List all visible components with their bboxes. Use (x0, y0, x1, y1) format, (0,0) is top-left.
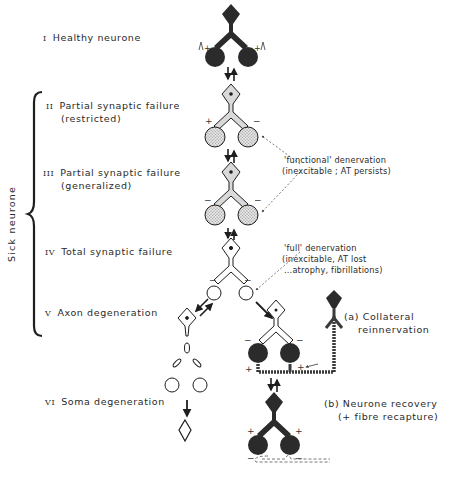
stage-6-label: VISoma degeneration (45, 396, 165, 409)
soma-remnant-icon (179, 420, 191, 441)
outcome-b-subtitle: (+ fibre recapture) (338, 411, 438, 423)
outcome-b-title: (b) Neurone recovery (324, 398, 437, 410)
stage-title: Partial synaptic failure (60, 167, 180, 178)
svg-text:+: + (204, 44, 211, 53)
full-denervation-title: 'full' denervation (284, 243, 357, 253)
stage-4-label: IVTotal synaptic failure (45, 246, 173, 259)
stage-2-label: IIPartial synaptic failure (46, 100, 180, 113)
stage-numeral: I (43, 34, 47, 43)
svg-text:−: − (204, 195, 212, 205)
stage-2-sublabel: (restricted) (61, 113, 121, 125)
partial-failure-generalized-neurone-icon: − − (204, 162, 262, 225)
outcome-a-subtitle: reinnervation (358, 324, 429, 336)
stage-numeral: V (45, 309, 51, 318)
functional-denervation-detail: (inexcitable ; AT persists) (282, 166, 391, 176)
healthy-neurone-icon: + + (199, 4, 265, 67)
collateral-reinnervation-icon: − − + + (244, 290, 342, 374)
stage-3-sublabel: (generalized) (61, 180, 132, 192)
svg-text:+: + (245, 364, 253, 374)
stage-1-label: IHealthy neurone (43, 32, 141, 45)
svg-text:+: + (247, 426, 255, 436)
stage-numeral: III (43, 169, 54, 178)
stage-title: Axon degeneration (57, 307, 157, 318)
stage-title: Partial synaptic failure (60, 100, 180, 111)
reversible-arrow-icon (228, 67, 234, 81)
reversible-arrow-icon (228, 149, 234, 163)
sick-neurone-label: Sick neurone (6, 186, 17, 262)
stage-title: Healthy neurone (53, 32, 141, 43)
full-denervation-detail-2: ...atrophy, fibrillations) (284, 265, 383, 275)
stage-3-label: IIIPartial synaptic failure (43, 167, 181, 180)
outcome-a-title: (a) Collateral (344, 311, 414, 323)
stage-title: Total synaptic failure (61, 246, 172, 257)
svg-text:−: − (209, 275, 217, 285)
stage-5-label: VAxon degeneration (45, 307, 158, 320)
stage-numeral: VI (45, 398, 55, 407)
reversible-arrow-icon (271, 378, 277, 392)
reversible-arrow-icon (196, 299, 212, 316)
axon-degeneration-neurone-icon (165, 308, 207, 392)
svg-text:−: − (296, 335, 304, 345)
sick-neurone-bracket (28, 92, 42, 336)
partial-failure-restricted-neurone-icon: + − (205, 84, 261, 147)
stage-title: Soma degeneration (61, 396, 165, 407)
svg-text:+: + (254, 44, 261, 53)
svg-text:+: + (295, 426, 303, 436)
stage-numeral: IV (45, 248, 55, 257)
functional-denervation-title: 'functional' denervation (284, 155, 386, 165)
svg-text:−: − (254, 195, 262, 205)
svg-text:−: − (247, 453, 255, 463)
svg-text:+: + (205, 116, 213, 126)
recovered-neurone-icon: + + − − (247, 392, 330, 463)
svg-text:−: − (244, 335, 252, 345)
total-failure-neurone-icon: − − (207, 238, 253, 300)
svg-text:−: − (244, 275, 252, 285)
svg-text:−: − (295, 453, 303, 463)
stage-numeral: II (46, 102, 54, 111)
svg-text:−: − (253, 116, 261, 126)
full-denervation-detail-1: (inexcitable, AT lost (282, 254, 367, 264)
